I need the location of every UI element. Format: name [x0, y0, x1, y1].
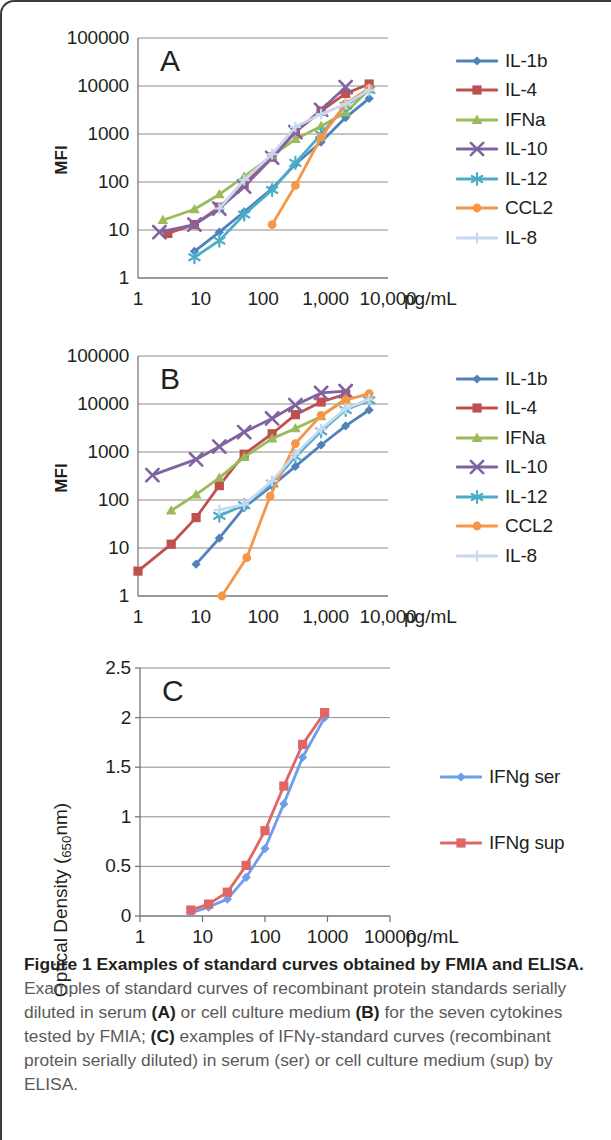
panel-c-letter: C: [162, 674, 184, 708]
legend-item-ifng-sup[interactable]: IFNg sup: [440, 810, 565, 876]
legend-item-il-4[interactable]: IL-4: [456, 76, 553, 106]
series-il-10: [153, 81, 352, 239]
legend-item-ifng-ser[interactable]: IFNg ser: [440, 744, 565, 810]
legend-marker-circle-icon: [466, 516, 488, 536]
y-tick-label: 10000: [0, 75, 129, 97]
figure-caption: Figure 1 Examples of standard curves obt…: [24, 952, 584, 1096]
panel-c: C Optical Density (650nm) 00.511.522.5 1…: [0, 640, 611, 930]
legend-swatch-plus-icon: [456, 547, 498, 565]
panel-a-letter: A: [160, 44, 180, 78]
x-tick-label: 1,000: [302, 288, 349, 310]
y-tick-label: 10000: [0, 393, 129, 415]
x-axis-unit-label: pg/mL: [406, 926, 459, 948]
x-tick-label: 1: [133, 288, 143, 310]
legend-item-il-8[interactable]: IL-8: [456, 223, 553, 253]
legend-marker-asterisk-icon: [466, 169, 488, 189]
legend-label: IL-12: [505, 168, 547, 190]
legend-marker-square-icon: [466, 398, 488, 418]
x-tick-label: 1: [135, 926, 145, 948]
legend-swatch-triangle-icon: [456, 111, 498, 129]
legend-marker-x-icon: [466, 457, 488, 477]
panel-a-chart: A MFI 110100100010000100000 1101001,0001…: [0, 0, 611, 318]
y-tick-label: 10: [0, 219, 129, 241]
legend-item-ccl2[interactable]: CCL2: [456, 512, 553, 542]
legend-label: IFNg sup: [489, 832, 565, 854]
x-tick-label: 10: [192, 926, 213, 948]
legend-marker-diamond-icon: [450, 767, 472, 787]
legend-label: IFNa: [505, 109, 545, 131]
legend-marker-triangle-icon: [466, 110, 488, 130]
legend-item-il-1b[interactable]: IL-1b: [456, 364, 553, 394]
panel-a-legend: IL-1bIL-4IFNaIL-10IL-12CCL2IL-8: [456, 46, 553, 253]
y-tick-label: 1: [0, 267, 129, 289]
legend-swatch-circle-icon: [456, 517, 498, 535]
x-tick-label: 1000: [307, 926, 348, 948]
y-tick-label: 100: [0, 171, 129, 193]
legend-swatch-square-icon: [456, 81, 498, 99]
legend-item-il-12[interactable]: IL-12: [456, 164, 553, 194]
panel-c-legend: IFNg serIFNg sup: [440, 744, 565, 876]
panel-c-chart: C Optical Density (650nm) 00.511.522.5 1…: [0, 640, 611, 930]
legend-swatch-square-icon: [440, 834, 482, 852]
legend-item-il-10[interactable]: IL-10: [456, 135, 553, 165]
caption-ref-b: (B): [356, 1002, 380, 1022]
legend-item-ifna[interactable]: IFNa: [456, 423, 553, 453]
y-tick-label: 1: [0, 585, 129, 607]
panel-b-chart: B MFI 110100100010000100000 1101001,0001…: [0, 318, 611, 636]
legend-label: IFNa: [505, 427, 545, 449]
y-tick-label: 100000: [0, 345, 129, 367]
legend-marker-diamond-icon: [466, 369, 488, 389]
series-il-8: [214, 85, 375, 214]
legend-swatch-circle-icon: [456, 199, 498, 217]
x-tick-label: 1,000: [302, 606, 349, 628]
legend-label: IL-10: [505, 456, 547, 478]
legend-item-il-10[interactable]: IL-10: [456, 453, 553, 483]
legend-label: CCL2: [505, 515, 553, 537]
caption-body-2: or cell culture medium: [176, 1002, 356, 1022]
legend-marker-square-icon: [450, 833, 472, 853]
legend-label: IFNg ser: [489, 766, 560, 788]
legend-item-il-4[interactable]: IL-4: [456, 394, 553, 424]
legend-item-il-1b[interactable]: IL-1b: [456, 46, 553, 76]
y-tick-label: 100: [0, 489, 129, 511]
x-axis-unit-label: pg/mL: [404, 288, 457, 310]
legend-marker-plus-icon: [466, 546, 488, 566]
x-tick-label: 100: [247, 606, 278, 628]
y-tick-label: 0.5: [0, 855, 131, 877]
x-tick-label: 1: [133, 606, 143, 628]
legend-item-il-8[interactable]: IL-8: [456, 541, 553, 571]
legend-label: IL-12: [505, 486, 547, 508]
series-il-12: [189, 84, 374, 263]
x-tick-label: 10: [190, 288, 211, 310]
y-tick-label: 0: [0, 905, 131, 927]
legend-swatch-asterisk-icon: [456, 488, 498, 506]
caption-ref-c: (C): [151, 1026, 175, 1046]
legend-item-ccl2[interactable]: CCL2: [456, 194, 553, 224]
y-tick-label: 1000: [0, 441, 129, 463]
series-ifng-ser: [186, 713, 329, 918]
y-tick-label: 2.5: [0, 657, 131, 679]
y-tick-label: 100000: [0, 27, 129, 49]
x-tick-label: 100: [247, 288, 278, 310]
series-ccl2: [268, 84, 374, 229]
panel-a: A MFI 110100100010000100000 1101001,0001…: [0, 0, 611, 318]
legend-label: IL-8: [505, 227, 537, 249]
legend-label: IL-8: [505, 545, 537, 567]
series-ifng-sup: [186, 708, 329, 915]
legend-item-il-12[interactable]: IL-12: [456, 482, 553, 512]
legend-item-ifna[interactable]: IFNa: [456, 105, 553, 135]
legend-swatch-diamond-icon: [440, 768, 482, 786]
legend-marker-asterisk-icon: [466, 487, 488, 507]
caption-lead: Figure 1 Examples of standard curves obt…: [24, 954, 584, 974]
legend-marker-plus-icon: [466, 228, 488, 248]
series-il-1b: [190, 94, 374, 256]
y-tick-label: 1.5: [0, 756, 131, 778]
legend-marker-triangle-icon: [466, 428, 488, 448]
legend-marker-diamond-icon: [466, 51, 488, 71]
caption-ref-a: (A): [152, 1002, 176, 1022]
panel-b-letter: B: [160, 362, 180, 396]
legend-swatch-x-icon: [456, 140, 498, 158]
legend-label: IL-4: [505, 397, 537, 419]
x-tick-label: 10: [190, 606, 211, 628]
legend-label: CCL2: [505, 197, 553, 219]
